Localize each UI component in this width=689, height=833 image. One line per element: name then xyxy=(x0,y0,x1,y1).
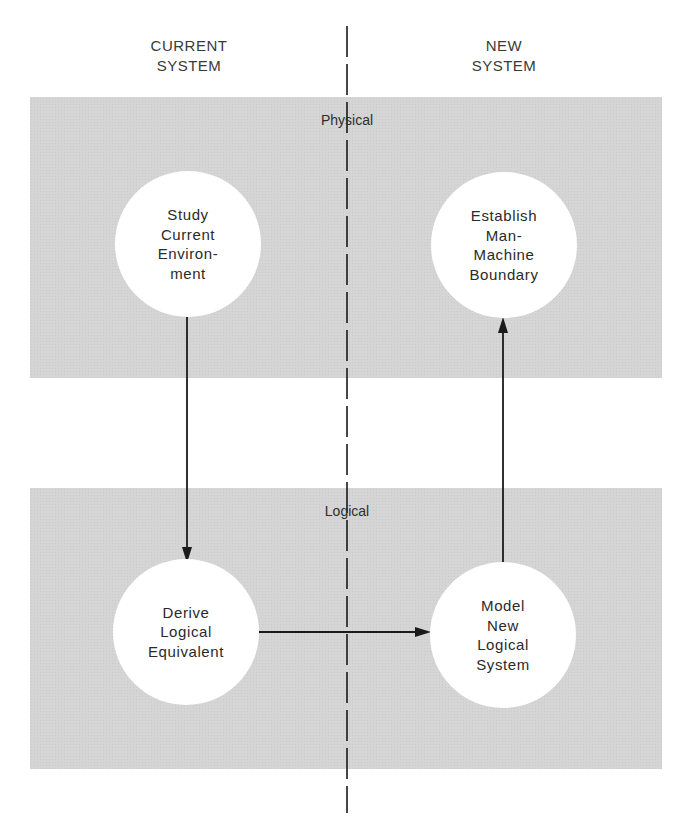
physical-band-label: Physical xyxy=(297,112,397,128)
current-system-header-line1: CURRENT xyxy=(109,36,269,56)
node-text-line: Study xyxy=(167,205,208,225)
node-text-line: Equivalent xyxy=(148,642,224,662)
node-text-line: Logical xyxy=(160,622,212,642)
node-text-line: Boundary xyxy=(469,265,538,285)
node-text-line: Environ- xyxy=(158,244,219,264)
node-text-line: Logical xyxy=(477,635,529,655)
node-establish-man-machine-boundary: Establish Man- Machine Boundary xyxy=(431,172,577,318)
node-text-line: Machine xyxy=(474,245,535,265)
node-text-line: Derive xyxy=(163,603,210,623)
node-text-line: Man- xyxy=(486,226,523,246)
new-system-header: NEW SYSTEM xyxy=(424,36,584,76)
current-system-header: CURRENT SYSTEM xyxy=(109,36,269,76)
node-text-line: Current xyxy=(161,225,215,245)
node-text-line: Establish xyxy=(471,206,537,226)
new-system-header-line1: NEW xyxy=(424,36,584,56)
node-text-line: System xyxy=(476,655,530,675)
node-text-line: Model xyxy=(481,596,525,616)
node-text-line: ment xyxy=(170,264,206,284)
node-text-line: New xyxy=(487,616,519,636)
current-system-header-line2: SYSTEM xyxy=(109,56,269,76)
node-derive-logical-equivalent: Derive Logical Equivalent xyxy=(113,559,259,705)
new-system-header-line2: SYSTEM xyxy=(424,56,584,76)
node-model-new-logical-system: Model New Logical System xyxy=(430,562,576,708)
logical-band-label: Logical xyxy=(297,503,397,519)
node-study-current-environment: Study Current Environ- ment xyxy=(115,171,261,317)
